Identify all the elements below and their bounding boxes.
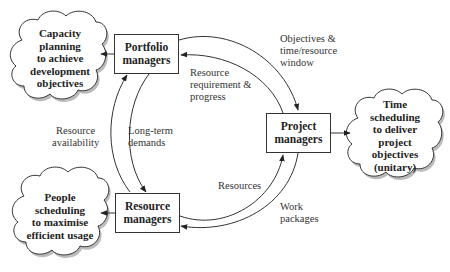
label-line: Resource xyxy=(190,67,252,79)
node-portfolio-line2: managers xyxy=(123,54,171,67)
label-resource-availability: Resource availability xyxy=(52,125,99,149)
label-line: Resource xyxy=(52,125,99,137)
node-portfolio-line1: Portfolio xyxy=(123,41,171,54)
label-line: Resources xyxy=(218,180,261,192)
label-line: Objectives & xyxy=(280,33,337,45)
cloud-time-line: to deliver xyxy=(355,123,435,136)
cloud-people-text: People scheduling to maximise efficient … xyxy=(14,191,106,241)
cloud-people-line: scheduling xyxy=(14,204,106,217)
cloud-time-line: Time xyxy=(355,98,435,111)
cloud-time-line: objectives xyxy=(355,148,435,161)
label-line: availability xyxy=(52,137,99,149)
cloud-time-line: (unitary) xyxy=(355,161,435,174)
node-project-line1: Project xyxy=(275,120,323,133)
cloud-capacity-line: development xyxy=(20,65,100,78)
label-objectives-window: Objectives & time/resource window xyxy=(280,33,337,69)
label-long-term-demands: Long-term demands xyxy=(128,125,173,149)
node-resource-line1: Resource xyxy=(124,200,172,213)
label-line: Work xyxy=(280,201,318,213)
cloud-time-line: scheduling xyxy=(355,111,435,124)
node-resource-line2: managers xyxy=(124,213,172,226)
label-resources: Resources xyxy=(218,180,261,192)
node-project-line2: managers xyxy=(275,133,323,146)
label-requirement-progress: Resource requirement & progress xyxy=(190,67,252,103)
cloud-capacity-text: Capacity planning to achieve development… xyxy=(20,27,100,90)
label-line: packages xyxy=(280,213,318,225)
label-line: requirement & xyxy=(190,79,252,91)
label-line: demands xyxy=(128,137,173,149)
cloud-time-text: Time scheduling to deliver project objec… xyxy=(355,98,435,173)
cloud-people-line: efficient usage xyxy=(14,229,106,242)
cloud-capacity-line: to achieve xyxy=(20,52,100,65)
node-portfolio-managers: Portfolio managers xyxy=(114,34,179,74)
node-project-managers: Project managers xyxy=(266,113,331,153)
label-work-packages: Work packages xyxy=(280,201,318,225)
node-resource-managers: Resource managers xyxy=(115,193,180,233)
cloud-time-line: project xyxy=(355,136,435,149)
cloud-capacity-line: planning xyxy=(20,40,100,53)
label-line: window xyxy=(280,57,337,69)
cloud-people-line: to maximise xyxy=(14,216,106,229)
cloud-capacity-line: Capacity xyxy=(20,27,100,40)
label-line: time/resource xyxy=(280,45,337,57)
label-line: Long-term xyxy=(128,125,173,137)
label-line: progress xyxy=(190,91,252,103)
cloud-capacity-line: objectives xyxy=(20,77,100,90)
cloud-people-line: People xyxy=(14,191,106,204)
